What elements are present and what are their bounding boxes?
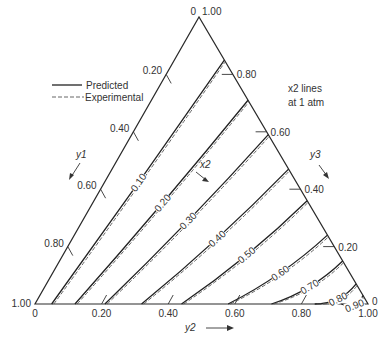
y3-tick-label: 0.80 [237, 69, 257, 80]
y2-tick-label: 0.40 [158, 308, 178, 319]
svg-text:y1: y1 [75, 149, 87, 160]
svg-text:x2: x2 [199, 159, 211, 170]
y2-tick-label: 0.60 [225, 308, 245, 319]
legend: Predicted Experimental [52, 80, 143, 103]
y1-axis-title: y1 [69, 149, 87, 180]
y3-tick-label: 0.60 [271, 127, 291, 138]
y2-tick [168, 295, 173, 304]
y3-axis-title: y3 [309, 149, 329, 179]
contour-label: 0.10 [128, 171, 148, 194]
y2-tick-label: 0.20 [92, 308, 112, 319]
y1-tick [166, 74, 171, 83]
contour-label: 0.60 [269, 263, 292, 283]
legend-experimental-label: Experimental [85, 92, 143, 103]
svg-text:y3: y3 [309, 149, 321, 160]
y3-tick-label: 0.20 [338, 242, 358, 253]
x2-label: x2 [196, 159, 211, 182]
y3-tick-label: 0.40 [304, 184, 324, 195]
y1-tick [133, 132, 138, 141]
annotation-line-1: x2 lines [288, 83, 322, 94]
y1-tick [68, 247, 73, 256]
y1-tick [101, 189, 106, 198]
y1-tick-label: 0.40 [110, 123, 130, 134]
contour-label: 0.70 [298, 277, 321, 297]
y2-axis-title: y2 [184, 322, 234, 333]
annotation-line-2: at 1 atm [288, 97, 324, 108]
y2-arrowhead-icon [227, 325, 234, 331]
y3-arrowhead-icon [323, 172, 329, 179]
legend-predicted-label: Predicted [86, 80, 128, 91]
ternary-chart: 0.100.200.300.400.500.600.700.800.90 00.… [0, 0, 389, 341]
y1-tick-label: 0 [190, 6, 196, 17]
y2-tick-label: 0 [32, 308, 38, 319]
svg-text:y2: y2 [184, 322, 196, 333]
y1-tick-label: 0.80 [44, 238, 64, 249]
y1-tick-label: 0.20 [143, 65, 163, 76]
y2-tick-label: 1.00 [358, 308, 378, 319]
y3-tick-label: 0 [372, 296, 378, 307]
y1-tick-label: 0.60 [77, 180, 97, 191]
y3-tick-label: 1.00 [202, 6, 222, 17]
y2-tick-label: 0.80 [292, 308, 312, 319]
contour-label: 0.50 [236, 244, 258, 265]
y1-tick-label: 1.00 [12, 298, 32, 309]
